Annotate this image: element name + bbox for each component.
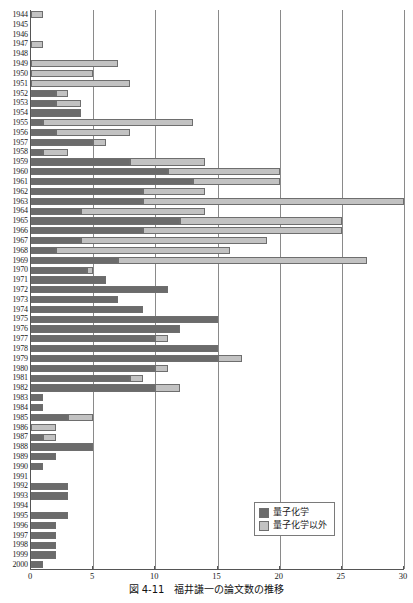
bar-segment-other bbox=[81, 208, 205, 215]
y-axis-label: 1968 bbox=[12, 247, 28, 255]
figure-caption: 図 4-11 福井謙一の論文数の推移 bbox=[0, 583, 413, 597]
y-axis-label: 1982 bbox=[12, 384, 28, 392]
y-axis-label: 1984 bbox=[12, 404, 28, 412]
bar-segment-quantum-chemistry bbox=[31, 217, 180, 224]
bar-row: 1986 bbox=[31, 423, 403, 433]
bar-segment-quantum-chemistry bbox=[31, 306, 143, 313]
bar-segment-quantum-chemistry bbox=[31, 296, 118, 303]
bar-row: 1962 bbox=[31, 187, 403, 197]
bar-segment-quantum-chemistry bbox=[31, 208, 81, 215]
x-tick-mark bbox=[217, 566, 218, 570]
y-axis-label: 1970 bbox=[12, 266, 28, 274]
bar-row: 1978 bbox=[31, 344, 403, 354]
bar-segment-other bbox=[56, 247, 230, 254]
bar-segment-other bbox=[43, 434, 55, 441]
bar-segment-quantum-chemistry bbox=[31, 512, 68, 519]
bar-segment-quantum-chemistry bbox=[31, 561, 43, 568]
stacked-bar bbox=[31, 227, 342, 234]
y-axis-label: 1994 bbox=[12, 502, 28, 510]
bar-segment-other bbox=[56, 90, 68, 97]
stacked-bar bbox=[31, 443, 93, 450]
stacked-bar bbox=[31, 434, 56, 441]
stacked-bar bbox=[31, 424, 56, 431]
bar-segment-other bbox=[31, 11, 43, 18]
stacked-bar bbox=[31, 109, 81, 116]
bar-segment-other bbox=[31, 424, 56, 431]
y-axis-label: 1951 bbox=[12, 80, 28, 88]
bar-row: 1965 bbox=[31, 216, 403, 226]
stacked-bar bbox=[31, 306, 143, 313]
stacked-bar bbox=[31, 158, 205, 165]
bar-row: 1997 bbox=[31, 531, 403, 541]
bar-row: 1980 bbox=[31, 364, 403, 374]
bar-row: 1956 bbox=[31, 128, 403, 138]
bar-row: 1953 bbox=[31, 98, 403, 108]
x-tick-mark bbox=[279, 566, 280, 570]
y-axis-label: 1971 bbox=[12, 276, 28, 284]
y-axis-label: 1946 bbox=[12, 31, 28, 39]
bar-rows: 1944194519461947194819491950195119521953… bbox=[31, 10, 403, 569]
bar-row: 1945 bbox=[31, 20, 403, 30]
y-axis-label: 1956 bbox=[12, 129, 28, 137]
bar-row: 1958 bbox=[31, 148, 403, 158]
bar-segment-quantum-chemistry bbox=[31, 227, 143, 234]
legend-item-other: 量子化学以外 bbox=[259, 519, 327, 532]
stacked-bar bbox=[31, 492, 68, 499]
stacked-bar bbox=[31, 70, 93, 77]
legend-label-light: 量子化学以外 bbox=[273, 521, 327, 530]
y-axis-label: 1959 bbox=[12, 158, 28, 166]
stacked-bar bbox=[31, 561, 43, 568]
stacked-bar bbox=[31, 217, 342, 224]
bar-segment-quantum-chemistry bbox=[31, 492, 68, 499]
bar-segment-quantum-chemistry bbox=[31, 335, 155, 342]
stacked-bar bbox=[31, 355, 242, 362]
stacked-bar bbox=[31, 168, 280, 175]
y-axis-label: 1950 bbox=[12, 70, 28, 78]
y-axis-label: 1975 bbox=[12, 315, 28, 323]
stacked-bar bbox=[31, 100, 81, 107]
stacked-bar bbox=[31, 119, 193, 126]
y-axis-label: 1981 bbox=[12, 374, 28, 382]
y-axis-label: 1957 bbox=[12, 139, 28, 147]
y-axis-label: 1989 bbox=[12, 453, 28, 461]
bar-row: 1983 bbox=[31, 393, 403, 403]
stacked-bar bbox=[31, 237, 267, 244]
bar-row: 1966 bbox=[31, 226, 403, 236]
bar-segment-other bbox=[81, 237, 268, 244]
stacked-bar bbox=[31, 257, 367, 264]
y-axis-label: 1980 bbox=[12, 365, 28, 373]
bar-segment-other bbox=[87, 267, 93, 274]
bar-segment-other bbox=[130, 158, 205, 165]
bar-segment-quantum-chemistry bbox=[31, 453, 56, 460]
bar-row: 1975 bbox=[31, 315, 403, 325]
x-tick-label: 15 bbox=[212, 570, 221, 582]
stacked-bar bbox=[31, 149, 68, 156]
bar-segment-quantum-chemistry bbox=[31, 414, 68, 421]
bar-row: 1996 bbox=[31, 521, 403, 531]
bar-segment-other bbox=[31, 70, 93, 77]
stacked-bar bbox=[31, 404, 43, 411]
plot-area: 1944194519461947194819491950195119521953… bbox=[30, 10, 403, 570]
bar-segment-quantum-chemistry bbox=[31, 365, 155, 372]
x-tick-label: 5 bbox=[90, 570, 94, 582]
y-axis-label: 1966 bbox=[12, 227, 28, 235]
bar-segment-other bbox=[168, 168, 280, 175]
bar-row: 1971 bbox=[31, 275, 403, 285]
bar-row: 1954 bbox=[31, 108, 403, 118]
bar-row: 1998 bbox=[31, 541, 403, 551]
bar-segment-quantum-chemistry bbox=[31, 542, 56, 549]
x-tick-mark bbox=[30, 566, 31, 570]
y-axis-label: 1961 bbox=[12, 178, 28, 186]
y-axis-label: 1979 bbox=[12, 355, 28, 363]
x-tick-label: 10 bbox=[150, 570, 159, 582]
bar-segment-quantum-chemistry bbox=[31, 257, 118, 264]
stacked-bar bbox=[31, 453, 56, 460]
bar-row: 1947 bbox=[31, 39, 403, 49]
y-axis-label: 1976 bbox=[12, 325, 28, 333]
bar-segment-quantum-chemistry bbox=[31, 276, 106, 283]
stacked-bar bbox=[31, 80, 130, 87]
bar-row: 1967 bbox=[31, 236, 403, 246]
bar-row: 1959 bbox=[31, 157, 403, 167]
stacked-bar bbox=[31, 286, 168, 293]
bar-segment-quantum-chemistry bbox=[31, 384, 155, 391]
